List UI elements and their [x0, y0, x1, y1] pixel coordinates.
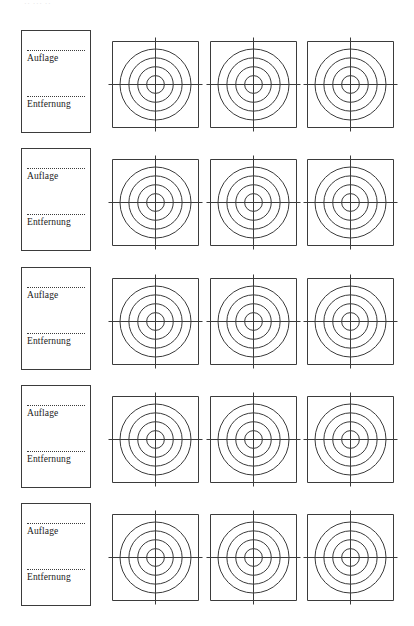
auflage-writing-line-row5 — [27, 523, 85, 524]
auflage-label-row1: Auflage — [27, 52, 87, 64]
worksheet-row-1: AuflageEntfernung — [0, 30, 414, 133]
entfernung-field-row4[interactable]: Entfernung — [27, 451, 87, 465]
entfernung-label-row4: Entfernung — [27, 453, 87, 465]
label-card-row4[interactable]: AuflageEntfernung — [21, 385, 91, 488]
entfernung-writing-line-row2 — [27, 214, 85, 215]
target-row1-col3[interactable] — [307, 41, 394, 128]
worksheet-row-5: AuflageEntfernung — [0, 503, 414, 606]
target-row2-col3[interactable] — [307, 159, 394, 246]
target-row4-col3[interactable] — [307, 396, 394, 483]
entfernung-field-row2[interactable]: Entfernung — [27, 214, 87, 228]
worksheet-row-2: AuflageEntfernung — [0, 148, 414, 251]
auflage-label-row3: Auflage — [27, 289, 87, 301]
entfernung-writing-line-row4 — [27, 451, 85, 452]
entfernung-writing-line-row3 — [27, 333, 85, 334]
entfernung-field-row3[interactable]: Entfernung — [27, 333, 87, 347]
target-row5-col1[interactable] — [112, 514, 199, 601]
target-row5-col3[interactable] — [307, 514, 394, 601]
entfernung-writing-line-row1 — [27, 96, 85, 97]
entfernung-writing-line-row5 — [27, 569, 85, 570]
auflage-field-row5[interactable]: Auflage — [27, 523, 87, 537]
label-card-row1[interactable]: AuflageEntfernung — [21, 30, 91, 133]
auflage-writing-line-row1 — [27, 50, 85, 51]
entfernung-label-row3: Entfernung — [27, 335, 87, 347]
auflage-label-row4: Auflage — [27, 407, 87, 419]
worksheet-sheet: AuflageEntfernungAuflageEntfernungAuflag… — [0, 0, 414, 626]
entfernung-label-row1: Entfernung — [27, 98, 87, 110]
worksheet-row-4: AuflageEntfernung — [0, 385, 414, 488]
target-row1-col1[interactable] — [112, 41, 199, 128]
target-row3-col3[interactable] — [307, 278, 394, 365]
auflage-field-row1[interactable]: Auflage — [27, 50, 87, 64]
entfernung-field-row1[interactable]: Entfernung — [27, 96, 87, 110]
auflage-label-row2: Auflage — [27, 170, 87, 182]
entfernung-field-row5[interactable]: Entfernung — [27, 569, 87, 583]
auflage-writing-line-row4 — [27, 405, 85, 406]
target-row2-col1[interactable] — [112, 159, 199, 246]
auflage-field-row2[interactable]: Auflage — [27, 168, 87, 182]
label-card-row3[interactable]: AuflageEntfernung — [21, 267, 91, 370]
worksheet-row-3: AuflageEntfernung — [0, 267, 414, 370]
entfernung-label-row5: Entfernung — [27, 571, 87, 583]
auflage-writing-line-row2 — [27, 168, 85, 169]
entfernung-label-row2: Entfernung — [27, 216, 87, 228]
auflage-label-row5: Auflage — [27, 525, 87, 537]
auflage-field-row3[interactable]: Auflage — [27, 287, 87, 301]
target-row4-col1[interactable] — [112, 396, 199, 483]
target-row3-col1[interactable] — [112, 278, 199, 365]
target-row2-col2[interactable] — [210, 159, 297, 246]
target-row4-col2[interactable] — [210, 396, 297, 483]
auflage-field-row4[interactable]: Auflage — [27, 405, 87, 419]
auflage-writing-line-row3 — [27, 287, 85, 288]
label-card-row5[interactable]: AuflageEntfernung — [21, 503, 91, 606]
target-row3-col2[interactable] — [210, 278, 297, 365]
target-row1-col2[interactable] — [210, 41, 297, 128]
target-row5-col2[interactable] — [210, 514, 297, 601]
label-card-row2[interactable]: AuflageEntfernung — [21, 148, 91, 251]
